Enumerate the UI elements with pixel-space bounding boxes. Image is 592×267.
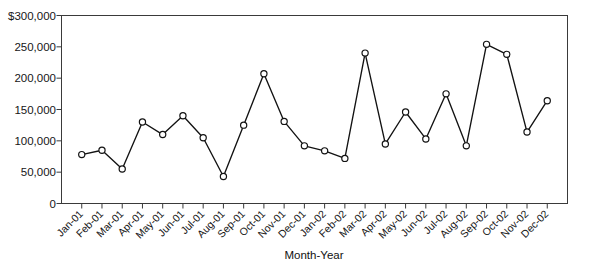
data-point-marker (139, 119, 145, 125)
data-point-marker (200, 135, 206, 141)
data-series-markers (79, 41, 551, 179)
chart-plot-svg: 050,000100,000150,000200,000250,000$300,… (0, 0, 592, 267)
y-axis-tick-label: $300,000 (8, 10, 56, 22)
y-axis-tick-label: 250,000 (14, 41, 56, 53)
y-axis-tick-label: 0 (50, 198, 56, 210)
data-point-marker (544, 98, 550, 104)
data-point-marker (504, 51, 510, 57)
y-axis-tick-labels: 050,000100,000150,000200,000250,000$300,… (8, 10, 56, 210)
line-chart-figure: 050,000100,000150,000200,000250,000$300,… (0, 0, 592, 267)
y-axis-tick-marks (57, 16, 62, 204)
data-point-marker (342, 155, 348, 161)
data-point-marker (241, 122, 247, 128)
data-point-marker (382, 141, 388, 147)
x-axis-tick-labels: Jan-01Feb-01Mar-01Apr-01May-01Jun-01Jul-… (54, 207, 551, 240)
data-point-marker (301, 143, 307, 149)
data-point-marker (99, 147, 105, 153)
y-axis-tick-label: 50,000 (21, 166, 56, 178)
data-point-marker (423, 136, 429, 142)
data-point-marker (463, 143, 469, 149)
data-point-marker (220, 173, 226, 179)
data-point-marker (261, 71, 267, 77)
data-point-marker (281, 118, 287, 124)
y-axis-tick-label: 100,000 (14, 135, 56, 147)
y-axis-tick-label: 200,000 (14, 72, 56, 84)
data-series-line (82, 44, 548, 176)
data-point-marker (180, 113, 186, 119)
data-point-marker (524, 129, 530, 135)
data-point-marker (362, 50, 368, 56)
data-point-marker (443, 91, 449, 97)
data-point-marker (119, 166, 125, 172)
data-point-marker (160, 131, 166, 137)
x-axis-label: Month-Year (284, 249, 343, 261)
data-point-marker (322, 148, 328, 154)
x-axis-tick-marks (82, 204, 548, 209)
data-point-marker (483, 41, 489, 47)
data-point-marker (402, 109, 408, 115)
y-axis-tick-label: 150,000 (14, 104, 56, 116)
plot-area-frame (62, 16, 568, 204)
data-point-marker (79, 152, 85, 158)
